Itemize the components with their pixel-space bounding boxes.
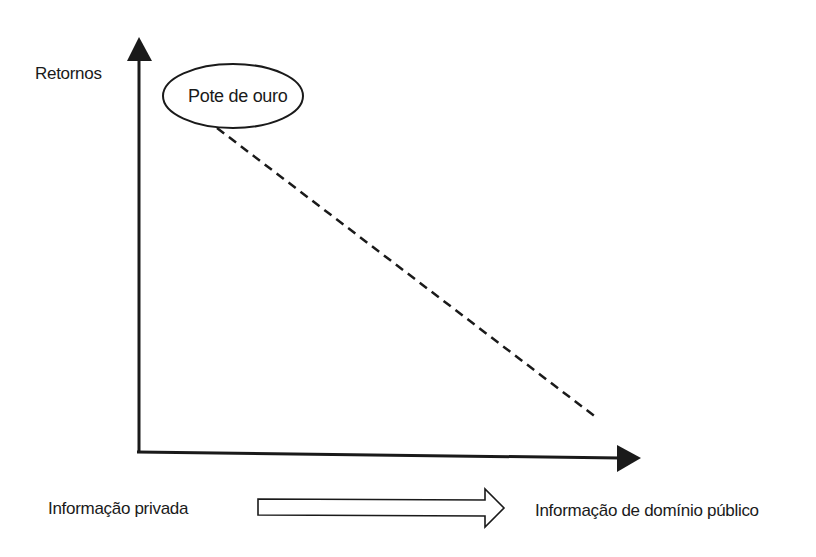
y-axis-arrowhead-icon — [127, 37, 152, 61]
x-axis-arrowhead-icon — [617, 445, 641, 472]
public-information-label: Informação de domínio público — [535, 501, 759, 521]
y-axis-label: Retornos — [35, 64, 102, 84]
diagram-canvas — [0, 0, 816, 557]
private-information-label: Informação privada — [48, 499, 188, 519]
pote-de-ouro-label: Pote de ouro — [188, 86, 287, 107]
y-axis — [127, 37, 152, 453]
hollow-block-arrow-icon — [258, 489, 504, 527]
x-axis — [137, 445, 641, 472]
dashed-trend-line — [217, 128, 597, 418]
